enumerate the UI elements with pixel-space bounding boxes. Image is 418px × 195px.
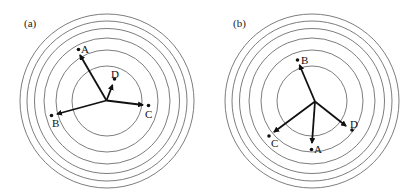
- ring-circle: [232, 21, 392, 181]
- point-b-dot: [296, 58, 300, 62]
- arrow-to-d: [315, 102, 346, 127]
- ring-circle: [225, 14, 399, 188]
- panel-b-label: (b): [233, 17, 246, 30]
- diagram-figure: (a) ABCD (b) BCAD: [0, 0, 418, 195]
- arrow-to-c: [274, 102, 315, 133]
- arrow-to-a: [312, 102, 315, 144]
- point-a-label: A: [81, 43, 89, 55]
- point-c-label: C: [271, 137, 278, 149]
- arrow-to-b: [57, 101, 107, 115]
- ring-circle: [249, 38, 375, 164]
- panel-a: (a) ABCD: [20, 14, 194, 188]
- point-a-label: A: [314, 143, 322, 155]
- point-d-label: D: [350, 118, 358, 130]
- ring-circle: [277, 66, 347, 136]
- point-a-dot: [77, 48, 81, 52]
- arrow-to-d: [107, 85, 113, 101]
- point-b-label: B: [301, 54, 308, 66]
- point-a-dot: [310, 148, 314, 152]
- arrow-to-b: [300, 65, 316, 102]
- vectors-a: ABCD: [50, 43, 153, 129]
- concentric-circles-b: [225, 14, 399, 188]
- arrow-to-c: [107, 101, 144, 106]
- point-d-label: D: [111, 68, 119, 80]
- point-c-label: C: [145, 108, 152, 120]
- point-b-label: B: [52, 117, 59, 129]
- point-c-dot: [147, 104, 151, 108]
- arrow-to-a: [80, 55, 107, 101]
- panel-b: (b) BCAD: [225, 14, 399, 188]
- panel-a-label: (a): [24, 17, 37, 30]
